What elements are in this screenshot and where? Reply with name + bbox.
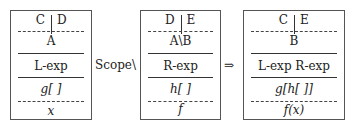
scope-right: E: [187, 13, 196, 27]
scope-left: D: [165, 13, 175, 27]
context-label: h[ ]: [141, 82, 220, 96]
solid-divider: [18, 77, 84, 78]
solid-divider: [251, 53, 337, 54]
expression-label: L-exp: [11, 59, 91, 73]
scope-operator: Scope\: [95, 58, 136, 72]
scope-left: C: [36, 13, 45, 27]
result-box: C E B L-exp R-exp g[h[ ]] f(x): [243, 10, 345, 120]
scope-left: C: [279, 13, 288, 27]
middle-box: D E A\B R-exp h[ ] f: [140, 10, 221, 120]
expression-label: R-exp: [141, 59, 220, 73]
expression-label: L-exp R-exp: [244, 59, 344, 73]
solid-divider: [148, 77, 213, 78]
term-label: f(x): [244, 103, 344, 117]
dashed-divider: [18, 101, 84, 102]
context-label: g[ ]: [11, 82, 91, 96]
scope-right: D: [57, 13, 67, 27]
type-label: A\B: [141, 34, 220, 48]
dashed-divider: [251, 31, 337, 32]
dashed-divider: [251, 101, 337, 102]
term-label: f: [141, 102, 220, 116]
solid-divider: [251, 77, 337, 78]
type-label: A: [11, 34, 91, 48]
solid-divider: [18, 53, 84, 54]
type-label: B: [244, 34, 344, 48]
implies-arrow: ⇒: [224, 58, 234, 72]
dashed-divider: [18, 31, 84, 32]
context-label: g[h[ ]]: [244, 82, 344, 96]
dashed-divider: [148, 31, 213, 32]
left-box: C D A L-exp g[ ] x: [10, 10, 92, 120]
scope-right: E: [300, 13, 309, 27]
solid-divider: [148, 53, 213, 54]
term-label: x: [11, 104, 91, 118]
